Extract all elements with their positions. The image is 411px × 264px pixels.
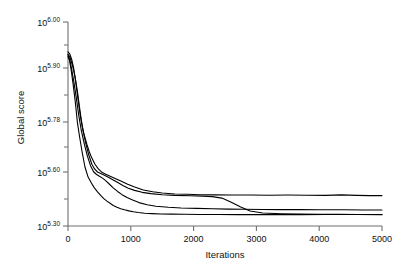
y-tick-label: 105.78 bbox=[37, 116, 60, 128]
series-line-run-1 bbox=[68, 52, 382, 196]
x-axis-title: Iterations bbox=[205, 249, 244, 260]
x-tick-label: 4000 bbox=[309, 234, 329, 244]
data-series-group bbox=[68, 52, 382, 215]
x-tick-label: 5000 bbox=[372, 234, 392, 244]
line-chart-plot: 106.00105.90105.78105.60105.30 010002000… bbox=[0, 0, 411, 264]
y-tick-label: 106.00 bbox=[37, 16, 60, 28]
series-line-run-2 bbox=[68, 54, 382, 214]
x-tick-label: 2000 bbox=[184, 234, 204, 244]
x-tick-label-group: 010002000300040005000 bbox=[65, 234, 392, 244]
x-tick-label: 3000 bbox=[246, 234, 266, 244]
y-tick-label: 105.90 bbox=[37, 62, 60, 74]
y-tick-label-group: 106.00105.90105.78105.60105.30 bbox=[37, 16, 60, 232]
series-line-run-3 bbox=[68, 55, 382, 210]
y-tick-mark-group bbox=[63, 22, 68, 226]
figure-container: Global score 106.00105.90105.78105.60105… bbox=[0, 0, 411, 264]
y-tick-label: 105.60 bbox=[37, 166, 60, 178]
x-tick-label: 1000 bbox=[121, 234, 141, 244]
x-tick-label: 0 bbox=[65, 234, 70, 244]
x-tick-mark-group bbox=[68, 226, 382, 231]
series-line-run-4 bbox=[68, 57, 382, 215]
y-tick-label: 105.30 bbox=[37, 220, 60, 232]
